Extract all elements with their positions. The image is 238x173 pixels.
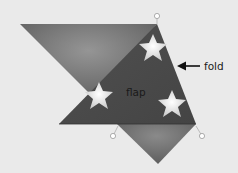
pin-top-icon [154, 13, 159, 24]
fold-label: fold [204, 60, 224, 72]
pin-bottom-right-icon [196, 126, 205, 139]
fold-arrow-icon [177, 62, 200, 71]
pin-bottom-left-icon [110, 126, 118, 139]
folded-flag-diagram: fold flap [0, 0, 238, 173]
lower-tip [117, 124, 196, 164]
flap-label: flap [126, 86, 146, 98]
